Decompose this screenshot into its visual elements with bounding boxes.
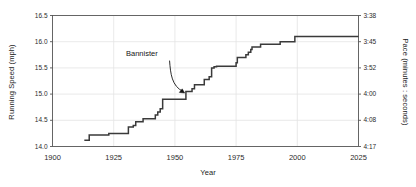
plot-frame [53,16,359,147]
x-axis-tick-label: 2025 [339,153,379,162]
x-axis-tick-label: 1925 [94,153,134,162]
y-axis-left-tick-label: 15.5 [26,64,48,71]
y-axis-right-tick-label: 4:00 [364,90,386,97]
x-axis-tick-label: 2000 [277,153,317,162]
running-speed-chart: Running Speed (mph) Pace (minutes : seco… [0,0,416,187]
y-axis-right-tick-label: 3:38 [364,12,386,19]
y-axis-right-tick-label: 3:45 [364,38,386,45]
x-axis-tick-label: 1975 [216,153,256,162]
y-axis-left-tick-label: 14.0 [26,143,48,150]
data-series-line [84,36,358,140]
y-axis-left-tick-label: 14.5 [26,116,48,123]
x-axis-tick-label: 1900 [33,153,73,162]
y-axis-left-tick-label: 16.0 [26,38,48,45]
y-axis-right-tick-label: 4:08 [364,116,386,123]
annotation-arrow [170,61,185,93]
y-axis-left-tick-label: 15.0 [26,90,48,97]
y-axis-left-tick-label: 16.5 [26,12,48,19]
y-axis-right-tick-label: 4:17 [364,143,386,150]
y-axis-right-tick-label: 3:52 [364,64,386,71]
x-axis-tick-label: 1950 [155,153,195,162]
tick-marks [50,16,361,147]
gridlines [53,16,359,147]
